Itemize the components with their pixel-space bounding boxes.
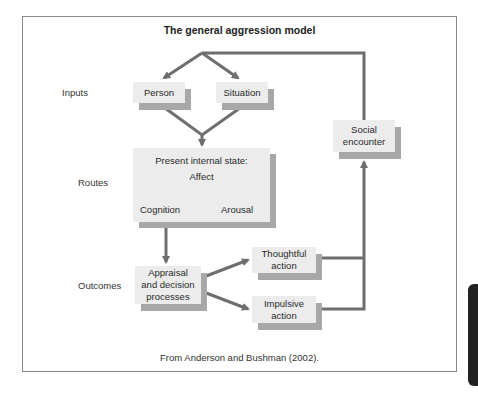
impulsive-out-line — [316, 258, 364, 309]
node-social-encounter: Social encounter — [333, 120, 395, 152]
node-situation: Situation — [216, 82, 268, 103]
figure-caption: From Anderson and Bushman (2002). — [22, 352, 457, 363]
arrow-to-person — [164, 53, 202, 78]
node-appraisal: Appraisal and decision processes — [135, 266, 201, 304]
arrow-to-impulsive — [201, 291, 248, 309]
arrow-to-thoughtful — [201, 260, 248, 278]
node-person: Person — [133, 82, 185, 103]
page-side-tab — [468, 284, 478, 386]
arrow-to-situation — [202, 53, 238, 78]
internal-state-affect: Affect — [133, 171, 270, 182]
internal-state-arousal: Arousal — [221, 204, 253, 215]
node-thoughtful-action: Thoughtful action — [252, 247, 316, 273]
node-impulsive-action: Impulsive action — [252, 296, 316, 323]
internal-state-heading: Present internal state: — [133, 155, 270, 166]
converge-line — [165, 108, 240, 135]
internal-state-cognition: Cognition — [140, 204, 180, 215]
